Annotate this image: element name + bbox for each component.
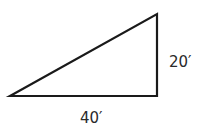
vertical-side-label: 20′ (169, 53, 192, 71)
triangle-diagram: 20′ 40′ (0, 0, 212, 138)
horizontal-side-label: 40′ (80, 109, 103, 127)
right-triangle (10, 14, 157, 96)
